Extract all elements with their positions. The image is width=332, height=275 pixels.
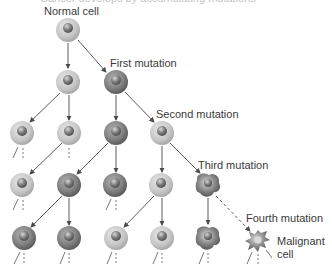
cell-group [10, 18, 174, 250]
label-first-mutation: First mutation [110, 57, 177, 69]
label-third-mutation: Third mutation [198, 159, 268, 171]
label-normal-cell: Normal cell [44, 5, 99, 17]
normal-cell [104, 226, 128, 250]
mutated-cell [57, 226, 81, 250]
irregular-cell-third-mutation-daughter [196, 227, 220, 250]
mutated-cell [103, 173, 127, 197]
normal-cell [10, 121, 34, 145]
label-fourth-mutation: Fourth mutation [246, 212, 323, 224]
mutated-cell [104, 70, 128, 94]
normal-cell [10, 173, 34, 197]
label-cell: cell [277, 248, 294, 260]
normal-cell [57, 121, 81, 145]
normal-cell [150, 226, 174, 250]
label-malignant: Malignant [277, 235, 325, 247]
normal-cell [56, 18, 80, 42]
malignant-cell [245, 230, 270, 252]
normal-cell [56, 70, 80, 94]
label-second-mutation: Second mutation [156, 108, 239, 120]
cancer-mutation-diagram: Cancer develops by accumulating mutation… [0, 0, 332, 275]
diagram-canvas [0, 0, 332, 275]
irregular-cell-third-mutation [196, 174, 220, 197]
normal-cell [149, 173, 173, 197]
mutated-cell [57, 173, 81, 197]
mutated-cell [104, 121, 128, 145]
fourth-mutation-dashed-arrow [216, 196, 250, 231]
mutated-cell [12, 226, 36, 250]
normal-cell [150, 121, 174, 145]
